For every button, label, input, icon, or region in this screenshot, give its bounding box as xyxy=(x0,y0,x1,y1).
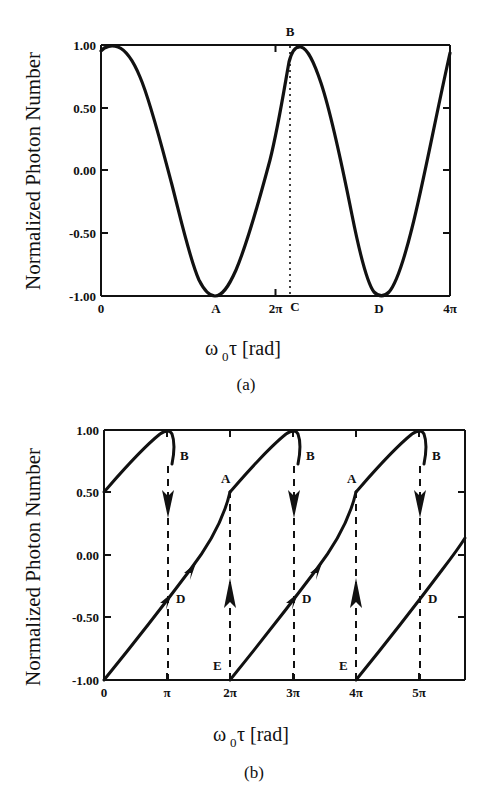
panel-a-x-axis-title-omega: ω xyxy=(205,337,218,359)
panel-b: Normalized Photon Number 1.00 0.50 0.00 … xyxy=(0,398,493,798)
panel-b-ytick-label-4: -1.00 xyxy=(72,673,99,688)
panel-b-down-transition-2 xyxy=(288,466,300,680)
panel-a-x-axis-title-sub: 0 xyxy=(222,349,229,364)
panel-b-xtick-label-3: 3π xyxy=(286,685,300,700)
panel-b-figure: Normalized Photon Number 1.00 0.50 0.00 … xyxy=(0,398,493,798)
panel-a-point-label-b: B xyxy=(286,24,295,39)
panel-b-x-axis-title: ω 0 τ [rad] xyxy=(213,723,289,750)
panel-b-down-transition-1 xyxy=(162,466,174,680)
panel-b-up-transition-1 xyxy=(224,490,236,680)
panel-b-ytick-label-0: 1.00 xyxy=(76,423,99,438)
panel-b-point-label-a1: A xyxy=(221,471,231,486)
panel-b-ytick-label-1: 0.50 xyxy=(76,485,99,500)
panel-a-curve xyxy=(101,46,450,296)
panel-b-point-label-e2: E xyxy=(339,658,348,673)
panel-b-point-label-a2: A xyxy=(347,471,357,486)
panel-a-y-axis-title: Normalized Photon Number xyxy=(21,52,45,290)
panel-a-point-label-c: C xyxy=(290,299,299,314)
panel-b-point-label-b1: B xyxy=(180,448,189,463)
panel-b-x-axis-title-tau: τ [rad] xyxy=(237,723,289,745)
panel-b-xtick-label-2: 2π xyxy=(223,685,237,700)
panel-a-x-axis-title: ω 0 τ [rad] xyxy=(205,337,281,364)
panel-b-upper-branch-1 xyxy=(104,431,174,492)
panel-a-xtick-label-0: 0 xyxy=(98,301,105,316)
panel-b-xtick-label-5: 5π xyxy=(412,685,426,700)
panel-b-ytick-label-2: 0.00 xyxy=(76,548,99,563)
panel-a-x-ticks xyxy=(101,45,450,296)
panel-a-point-label-d: D xyxy=(374,301,383,316)
panel-b-y-ticks xyxy=(104,430,111,680)
panel-a-caption: (a) xyxy=(237,375,256,394)
panel-b-x-axis-title-omega: ω xyxy=(213,723,226,745)
panel-b-upper-branch-3 xyxy=(356,431,426,492)
panel-b-point-label-b3: B xyxy=(432,448,441,463)
panel-b-up-transition-2 xyxy=(350,490,362,680)
panel-b-xtick-label-1: π xyxy=(163,685,170,700)
panel-b-y-axis-title: Normalized Photon Number xyxy=(21,448,45,686)
panel-a-ytick-label-0: 1.00 xyxy=(73,38,96,53)
panel-b-lower-branch-3 xyxy=(356,538,465,680)
panel-b-ytick-label-3: -0.50 xyxy=(72,610,99,625)
panel-a-ytick-label-1: 0.50 xyxy=(73,101,96,116)
panel-a-figure: Normalized Photon Number 1.00 0.50 0.00 … xyxy=(0,0,493,398)
panel-a-xtick-label-2: 4π xyxy=(443,301,457,316)
panel-a: Normalized Photon Number 1.00 0.50 0.00 … xyxy=(0,0,493,398)
panel-b-upper-branch-2 xyxy=(230,431,300,492)
panel-a-ytick-label-4: -1.00 xyxy=(69,289,96,304)
panel-b-x-axis-title-sub: 0 xyxy=(230,735,237,750)
panel-b-xtick-label-4: 4π xyxy=(349,685,363,700)
panel-a-ytick-label-2: 0.00 xyxy=(73,163,96,178)
panel-b-xtick-label-0: 0 xyxy=(101,685,108,700)
panel-b-point-label-d1: D xyxy=(176,591,185,606)
panel-b-down-transition-3 xyxy=(414,466,426,680)
panel-a-xtick-label-1: 2π xyxy=(269,301,283,316)
panel-b-caption: (b) xyxy=(244,763,264,782)
panel-a-x-axis-title-tau: τ [rad] xyxy=(229,337,281,359)
panel-b-point-label-d3: D xyxy=(428,591,437,606)
panel-a-y-ticks xyxy=(101,45,108,296)
panel-b-point-label-b2: B xyxy=(306,448,315,463)
panel-a-point-label-a: A xyxy=(211,301,221,316)
panel-a-ytick-label-3: -0.50 xyxy=(69,226,96,241)
panel-b-y-ticks-right xyxy=(458,430,465,680)
panel-b-point-label-e1: E xyxy=(213,658,222,673)
panel-b-point-label-d2: D xyxy=(302,591,311,606)
